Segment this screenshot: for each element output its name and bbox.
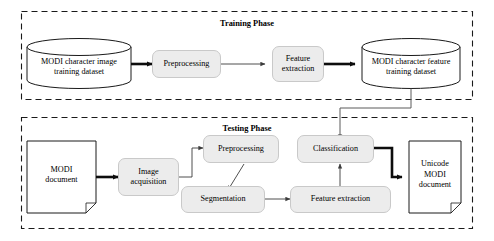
test-preprocessing-box[interactable] (203, 135, 279, 163)
test-output-document-shape (409, 141, 461, 213)
edge-test-acquisition-to-preprocessing (179, 148, 203, 177)
training-phase-title: Training Phase (0, 19, 494, 28)
test-segmentation-box[interactable] (181, 186, 265, 213)
train-input-db-shape (27, 39, 131, 89)
test-image-acquisition-box[interactable] (118, 158, 179, 196)
train-feature-extraction-box[interactable] (272, 46, 324, 82)
edge-test-classification-to-output (374, 148, 402, 177)
train-preprocessing-box[interactable] (152, 50, 221, 78)
test-classification-box[interactable] (297, 135, 374, 163)
testing-phase-title: Testing Phase (0, 124, 494, 133)
flowchart-diagram: Training Phase Testing Phase MODI charac… (0, 0, 494, 241)
test-input-document-shape (27, 141, 96, 213)
train-output-db-shape (362, 39, 460, 89)
test-feature-extraction-box[interactable] (290, 186, 391, 213)
